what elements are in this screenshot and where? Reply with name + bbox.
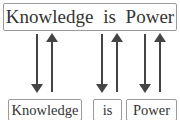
token-box-knowledge: Knowledge [8, 99, 82, 120]
token-box-is: is [93, 99, 122, 120]
token-box-power: Power [126, 99, 177, 120]
token-text: is [103, 102, 113, 119]
up-arrow-icon [46, 33, 58, 92]
up-arrow-icon [111, 33, 123, 92]
token-text: Knowledge [12, 102, 79, 119]
token-text: Power [133, 102, 170, 119]
down-arrow-icon [96, 34, 108, 93]
down-arrow-icon [31, 34, 43, 93]
up-arrow-icon [154, 33, 166, 92]
down-arrow-icon [139, 34, 151, 93]
